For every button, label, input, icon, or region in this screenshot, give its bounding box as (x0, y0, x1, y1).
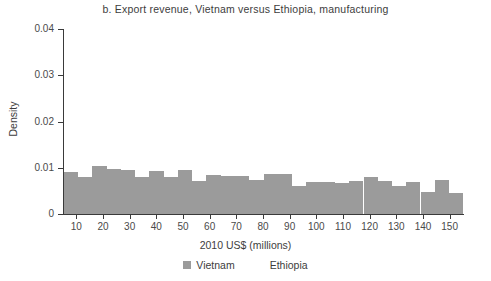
histogram-bar (278, 174, 292, 214)
x-axis-title: 2010 US$ (millions) (0, 239, 491, 251)
y-tick-label: 0.03 (35, 69, 54, 80)
chart-title: b. Export revenue, Vietnam versus Ethiop… (0, 3, 491, 15)
histogram-bar (178, 170, 192, 214)
x-tick (450, 215, 451, 219)
histogram-bar (135, 177, 149, 214)
x-tick-label: 130 (381, 221, 411, 232)
y-tick (58, 122, 63, 123)
x-tick-label: 10 (61, 221, 91, 232)
histogram-bar (78, 177, 92, 214)
x-tick (290, 215, 291, 219)
histogram-bar (107, 169, 121, 214)
x-tick (370, 215, 371, 219)
histogram-bar (435, 180, 449, 214)
histogram-bar (349, 181, 363, 214)
x-tick (183, 215, 184, 219)
x-tick-label: 110 (328, 221, 358, 232)
histogram-bar (335, 183, 349, 214)
x-tick (130, 215, 131, 219)
histogram-bar (92, 166, 106, 214)
legend-swatch-vietnam (183, 261, 191, 269)
x-tick-label: 30 (115, 221, 145, 232)
legend-label-vietnam: Vietnam (196, 259, 234, 271)
x-tick (263, 215, 264, 219)
histogram-bar (292, 186, 306, 214)
y-tick-label: 0.02 (35, 116, 54, 127)
histogram-bar (149, 171, 163, 214)
histogram-bar (421, 192, 435, 214)
y-tick-label: 0 (48, 208, 54, 219)
chart-figure: b. Export revenue, Vietnam versus Ethiop… (0, 0, 491, 281)
y-tick-label: 0.01 (35, 162, 54, 173)
x-tick (103, 215, 104, 219)
histogram-bar (249, 180, 263, 214)
legend-item-vietnam: Vietnam (183, 259, 234, 271)
x-tick-label: 60 (195, 221, 225, 232)
x-tick-label: 90 (275, 221, 305, 232)
histogram-bar (235, 176, 249, 214)
histogram-bar (321, 182, 335, 214)
x-tick-label: 40 (141, 221, 171, 232)
x-tick-label: 100 (301, 221, 331, 232)
x-tick (210, 215, 211, 219)
y-tick (58, 214, 63, 215)
x-tick-label: 150 (435, 221, 465, 232)
x-tick-label: 120 (355, 221, 385, 232)
x-tick (396, 215, 397, 219)
histogram-bar (164, 177, 178, 214)
y-tick-label: 0.04 (35, 23, 54, 34)
histogram-bar (406, 182, 420, 214)
histogram-bar (378, 181, 392, 214)
x-tick (76, 215, 77, 219)
histogram-bar (64, 172, 78, 214)
x-tick (343, 215, 344, 219)
histogram-bar (264, 174, 278, 214)
chart-legend: Vietnam Ethiopia (0, 259, 491, 271)
x-tick-label: 20 (88, 221, 118, 232)
legend-label-ethiopia: Ethiopia (270, 259, 308, 271)
x-tick-label: 70 (221, 221, 251, 232)
x-tick (156, 215, 157, 219)
x-tick-label: 80 (248, 221, 278, 232)
y-tick (58, 29, 63, 30)
histogram-bar (306, 182, 320, 214)
x-tick-label: 140 (408, 221, 438, 232)
histogram-bar (364, 177, 378, 214)
histogram-bar (221, 176, 235, 214)
legend-swatch-ethiopia (257, 261, 265, 269)
y-tick (58, 168, 63, 169)
x-tick (236, 215, 237, 219)
histogram-bar (392, 186, 406, 214)
histogram-bar (206, 175, 220, 214)
y-axis-title: Density (7, 89, 19, 149)
x-tick (423, 215, 424, 219)
histogram-bars (64, 29, 463, 214)
histogram-bar (121, 170, 135, 214)
legend-item-ethiopia: Ethiopia (257, 259, 308, 271)
histogram-bar (449, 193, 463, 214)
x-tick-label: 50 (168, 221, 198, 232)
histogram-bar (192, 181, 206, 214)
y-tick (58, 75, 63, 76)
x-tick (316, 215, 317, 219)
